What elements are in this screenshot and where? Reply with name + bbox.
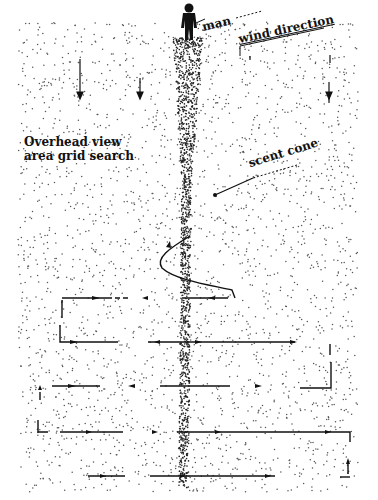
diagram-svg: [0, 0, 378, 500]
title-line-2: area grid search: [24, 149, 134, 163]
title-line-1: Overhead view: [24, 135, 134, 149]
dog-path-spiral: [160, 236, 235, 298]
scent-cone: [173, 37, 204, 488]
grid-arrowheads: [38, 296, 350, 478]
scent-cone-pointer-icon: [213, 193, 217, 197]
diagram-canvas: man wind direction scent cone Overhead v…: [0, 0, 378, 500]
man-icon: [181, 4, 197, 41]
diagram-title: Overhead view area grid search: [24, 135, 134, 163]
wind-arrows: [77, 55, 332, 103]
